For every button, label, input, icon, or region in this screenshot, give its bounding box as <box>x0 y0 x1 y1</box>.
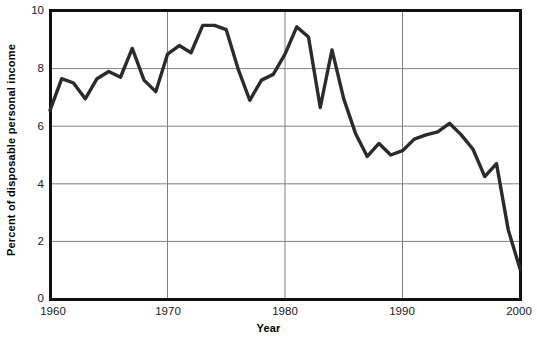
chart-figure: Percent of disposable personal income 10… <box>0 0 537 339</box>
chart-plot-area <box>0 0 537 339</box>
